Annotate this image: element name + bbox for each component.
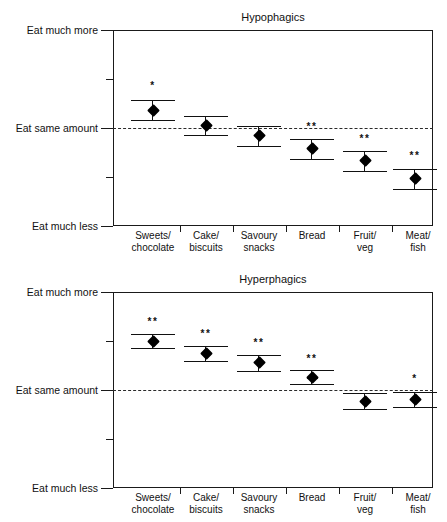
error-bar-lower-cap: [237, 371, 281, 372]
x-label-line2: snacks: [223, 504, 295, 516]
x-label-line2: fish: [382, 242, 447, 254]
significance-marker: **: [133, 317, 173, 327]
error-bar-lower-cap: [393, 407, 437, 408]
y-axis-tick-bottom: [101, 488, 113, 489]
zero-reference-line: [113, 390, 433, 391]
y-axis-tick-top: [101, 292, 113, 293]
error-bar-lower-cap: [343, 171, 387, 172]
x-label-line2: snacks: [223, 242, 295, 254]
zero-reference-line: [113, 128, 433, 129]
y-axis-tick-lower-mid: [106, 177, 113, 178]
significance-marker: *: [395, 374, 435, 384]
significance-marker: **: [292, 122, 332, 132]
error-bar-lower-cap: [131, 120, 175, 121]
significance-marker: **: [345, 134, 385, 144]
y-axis-tick-top: [101, 30, 113, 31]
chart-title-hyperphagics: Hyperphagics: [113, 273, 433, 285]
chart-panel-hypophagics: Hypophagics Eat much more Eat same amoun…: [0, 0, 447, 260]
error-bar-lower-cap: [343, 409, 387, 410]
error-bar-lower-cap: [131, 348, 175, 349]
y-axis-tick-upper-mid: [106, 79, 113, 80]
x-label-line1: Meat/: [382, 492, 447, 504]
x-axis-label-meat-fish: Meat/ fish: [382, 230, 447, 253]
error-bar-lower-cap: [290, 159, 334, 160]
y-axis-tick-lower-mid: [106, 439, 113, 440]
y-axis-tick-bottom: [101, 226, 113, 227]
significance-marker: **: [395, 151, 435, 161]
y-axis-label-eat-much-less: Eat much less: [0, 221, 98, 232]
error-bar-lower-cap: [290, 384, 334, 385]
error-bar-lower-cap: [393, 189, 437, 190]
y-axis-tick-middle: [101, 390, 113, 391]
x-label-line2: fish: [382, 504, 447, 516]
x-axis-label-meat-fish: Meat/ fish: [382, 492, 447, 515]
error-bar-lower-cap: [237, 146, 281, 147]
y-axis-label-eat-much-less: Eat much less: [0, 483, 98, 494]
error-bar-lower-cap: [184, 361, 228, 362]
significance-marker: **: [186, 329, 226, 339]
y-axis-tick-middle: [101, 128, 113, 129]
y-axis-label-eat-much-more: Eat much more: [0, 287, 98, 298]
y-axis-label-eat-much-more: Eat much more: [0, 25, 98, 36]
significance-marker: **: [292, 354, 332, 364]
x-label-line1: Meat/: [382, 230, 447, 242]
error-bar-lower-cap: [184, 135, 228, 136]
significance-marker: **: [239, 338, 279, 348]
chart-title-hypophagics: Hypophagics: [113, 11, 433, 23]
chart-panel-hyperphagics: Hyperphagics Eat much more Eat same amou…: [0, 262, 447, 522]
significance-marker: *: [133, 81, 173, 91]
y-axis-tick-upper-mid: [106, 341, 113, 342]
y-axis-label-eat-same-amount: Eat same amount: [0, 123, 98, 134]
y-axis-label-eat-same-amount: Eat same amount: [0, 385, 98, 396]
